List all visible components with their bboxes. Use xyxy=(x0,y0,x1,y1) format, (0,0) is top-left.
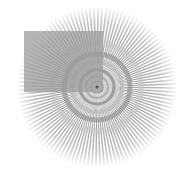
test-pattern-image xyxy=(0,0,187,173)
gray-square-overlay xyxy=(24,31,103,92)
center-dot xyxy=(96,86,99,89)
